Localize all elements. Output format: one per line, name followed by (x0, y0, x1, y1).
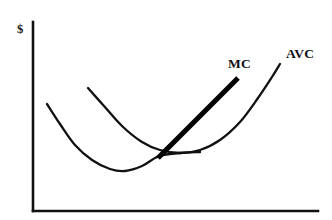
cost-curves-diagram: $ MC AVC (0, 0, 332, 220)
y-axis-label: $ (17, 22, 23, 36)
mc-curve-label: MC (228, 56, 251, 71)
cost-curve-chart: $ MC AVC (0, 0, 332, 220)
avc-curve-label: AVC (286, 46, 314, 61)
